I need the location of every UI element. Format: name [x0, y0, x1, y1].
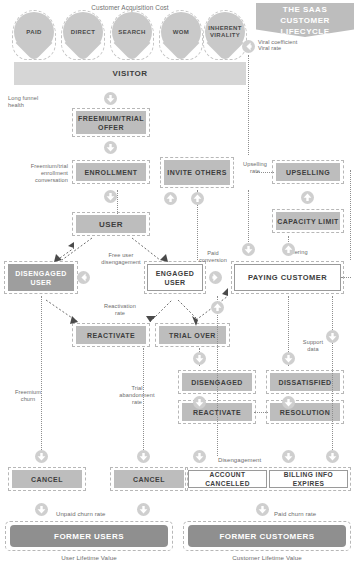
arrow-down-icon — [104, 141, 117, 154]
arrow-down-icon — [35, 450, 48, 463]
arrow-down-icon — [104, 92, 117, 105]
arrow-up-icon — [301, 191, 314, 204]
channel-pin-label: WOM — [161, 12, 201, 52]
arrow-right-icon — [209, 271, 222, 284]
arrow-up-icon — [282, 243, 295, 256]
arrow-down-icon — [326, 330, 339, 343]
channel-pin-inherent-virality[interactable]: INHERENT VIRALITY — [205, 12, 245, 58]
arrow-down-icon — [193, 396, 206, 409]
channel-pin-paid[interactable]: PAID — [14, 12, 54, 58]
arrow-down-icon — [193, 352, 206, 365]
channel-pin-wom[interactable]: WOM — [161, 12, 201, 58]
channel-pin-label: DIRECT — [63, 12, 103, 52]
arrow-down-icon — [282, 450, 295, 463]
arrow-down-icon — [282, 352, 295, 365]
arrow-down-icon — [104, 190, 117, 203]
arrow-left-icon — [77, 271, 90, 284]
channel-pin-direct[interactable]: DIRECT — [63, 12, 103, 58]
arrow-down-icon — [137, 450, 150, 463]
arrow-down-icon — [242, 243, 255, 256]
channel-pin-label: INHERENT VIRALITY — [205, 12, 245, 52]
arrow-down-icon — [326, 450, 339, 463]
arrow-down-icon — [137, 503, 150, 516]
channel-pin-label: PAID — [14, 12, 54, 52]
arrow-up-icon — [211, 301, 224, 314]
arrow-down-icon — [282, 396, 295, 409]
arrow-down-icon — [193, 450, 206, 463]
arrow-up-icon — [164, 192, 177, 205]
arrow-down-icon — [35, 503, 48, 516]
arrow-down-icon — [256, 503, 269, 516]
badge-layer — [0, 0, 358, 570]
arrow-up-icon — [191, 192, 204, 205]
channel-pin-label: SEARCH — [112, 12, 152, 52]
channel-pin-search[interactable]: SEARCH — [112, 12, 152, 58]
